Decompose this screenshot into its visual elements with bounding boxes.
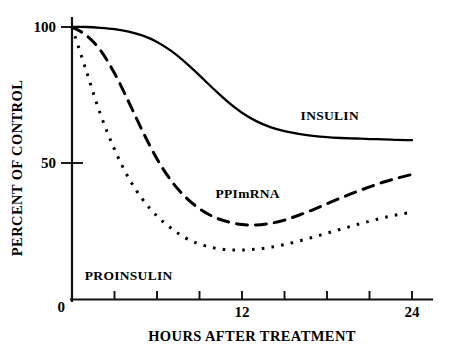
y-tick-label-100: 100 xyxy=(34,19,57,35)
x-axis-ticks xyxy=(72,289,412,299)
y-tick-label-0: 0 xyxy=(58,299,66,315)
series-label-proinsulin: PROINSULIN xyxy=(85,268,173,283)
series-label-ppimrna: PPImRNA xyxy=(216,186,280,201)
series-annotations: INSULIN PPImRNA PROINSULIN xyxy=(85,108,359,284)
y-axis-title: PERCENT OF CONTROL xyxy=(9,80,25,256)
line-chart: 100 50 0 12 24 HOURS AFTER TREATMENT PER… xyxy=(0,0,453,357)
axes xyxy=(71,18,432,301)
x-tick-label-12: 12 xyxy=(235,304,250,320)
x-tick-label-24: 24 xyxy=(405,304,421,320)
x-axis-title: HOURS AFTER TREATMENT xyxy=(148,328,356,344)
series-curves xyxy=(72,27,412,250)
series-label-insulin: INSULIN xyxy=(301,108,359,123)
y-tick-label-50: 50 xyxy=(41,155,56,171)
series-line-insulin xyxy=(72,27,412,140)
y-axis-tick-labels: 100 50 0 xyxy=(34,19,66,315)
chart-figure: 100 50 0 12 24 HOURS AFTER TREATMENT PER… xyxy=(0,0,453,357)
x-axis-tick-labels: 12 24 xyxy=(235,304,421,320)
